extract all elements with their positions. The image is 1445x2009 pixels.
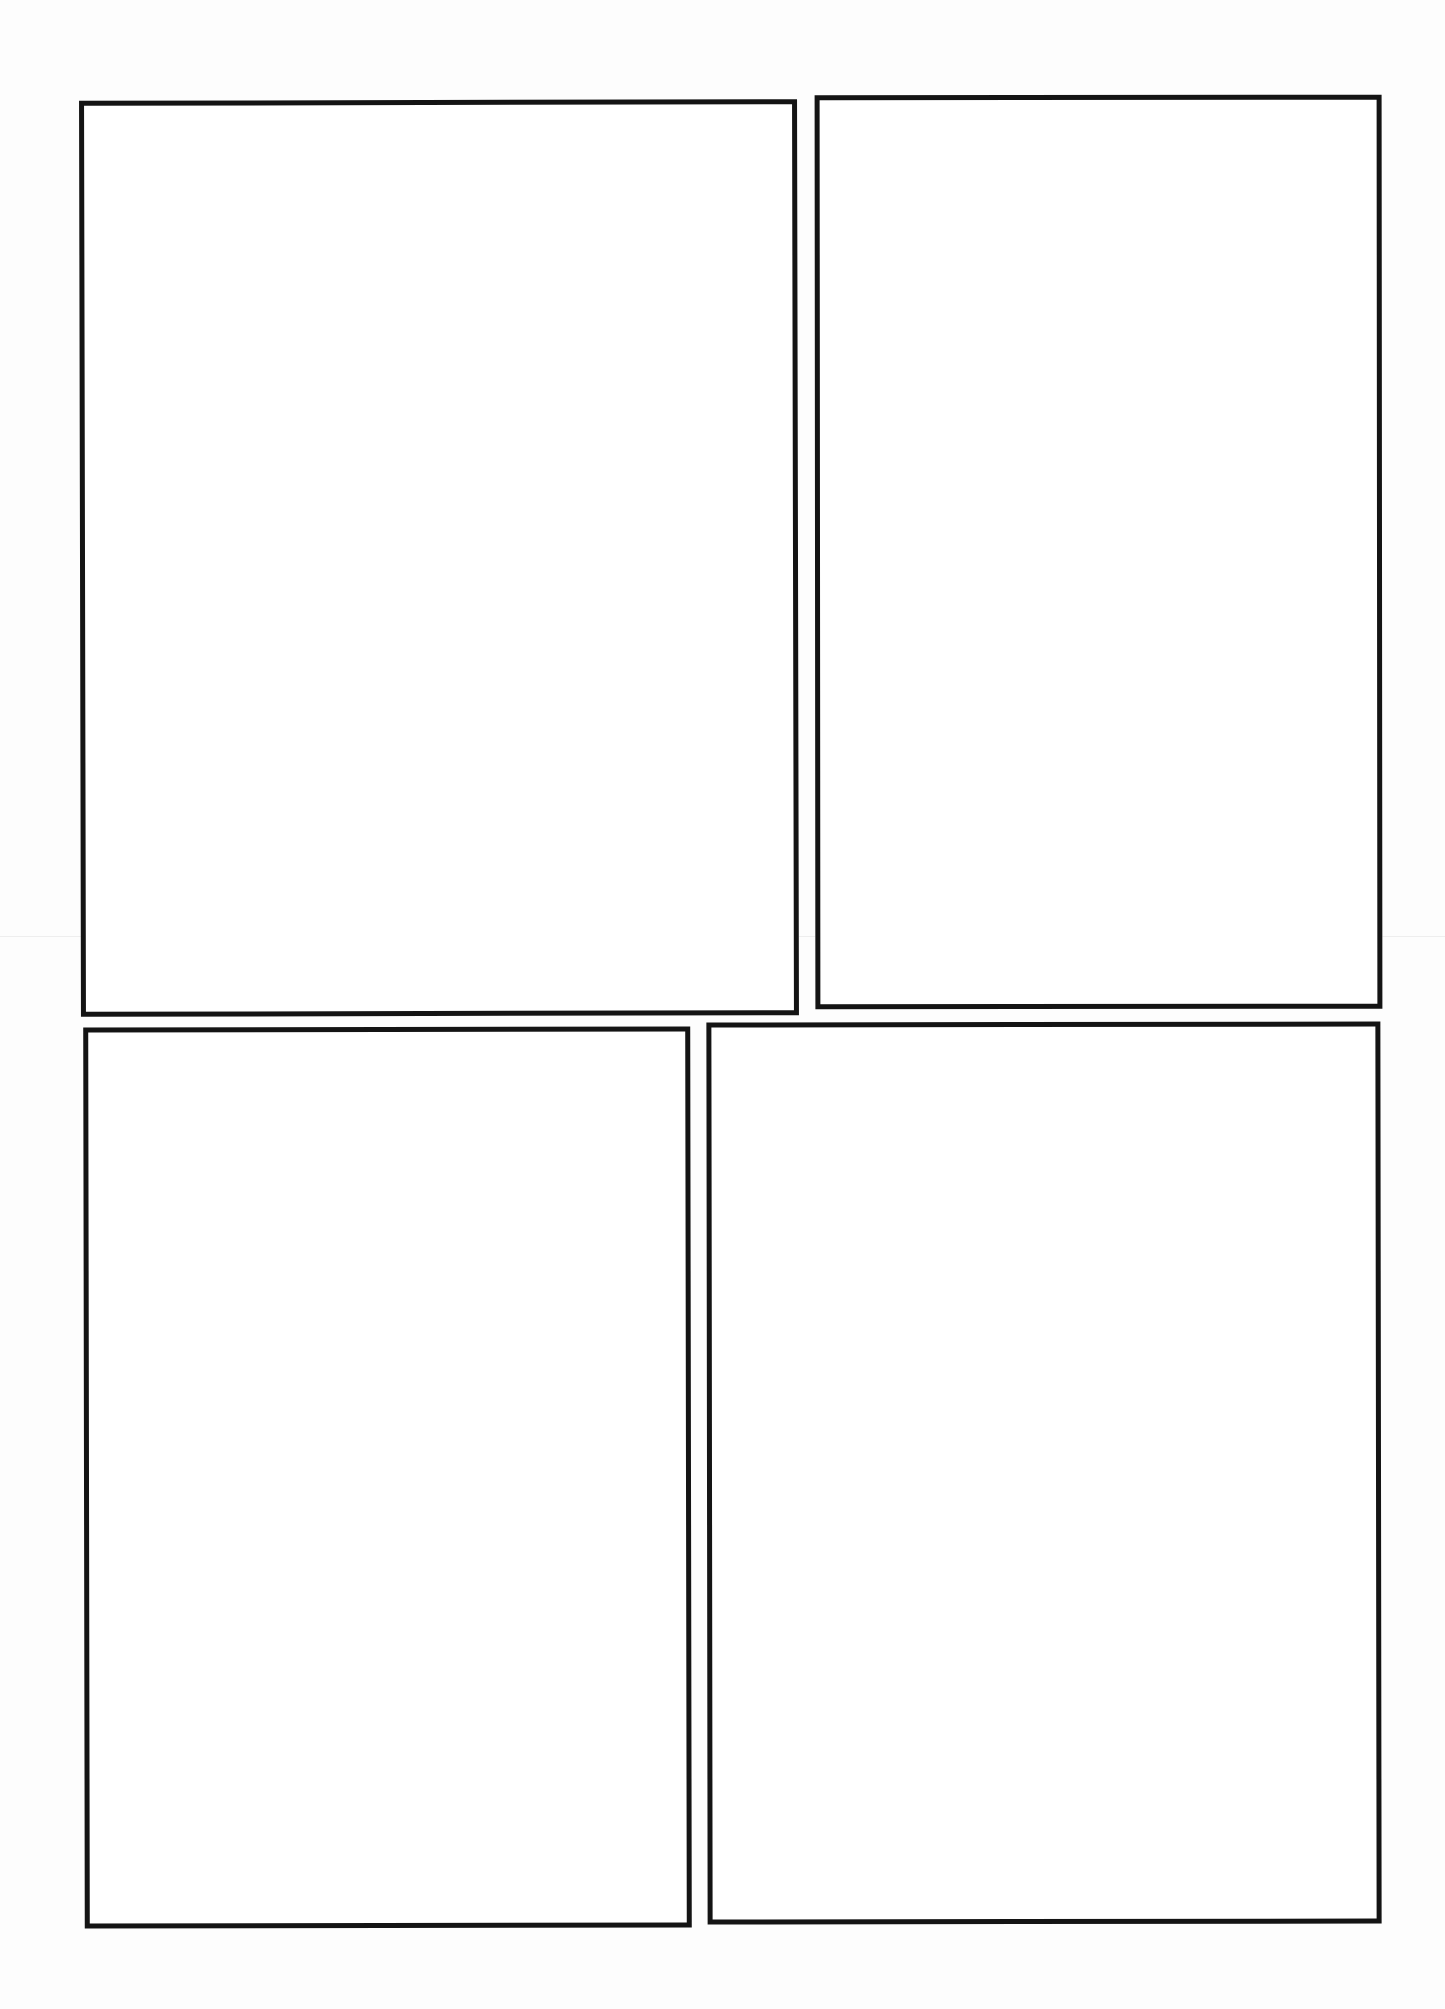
panel-bottom-left bbox=[83, 1026, 692, 1928]
panel-top-right bbox=[815, 95, 1383, 1009]
comic-page bbox=[0, 0, 1445, 2009]
panel-top-left bbox=[79, 99, 799, 1017]
panel-bottom-right bbox=[706, 1022, 1381, 1925]
